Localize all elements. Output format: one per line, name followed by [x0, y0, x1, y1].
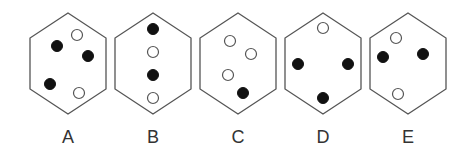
filled-dot: [293, 59, 304, 70]
hexagon-figure: ABCDE: [0, 0, 469, 160]
option-c[interactable]: C: [200, 13, 276, 147]
filled-dot: [52, 41, 63, 52]
option-e[interactable]: E: [370, 13, 446, 147]
filled-dot: [45, 79, 56, 90]
filled-dot: [418, 49, 429, 60]
open-dot: [148, 47, 159, 58]
open-dot: [246, 49, 257, 60]
option-label: E: [402, 127, 414, 147]
open-dot: [318, 23, 329, 34]
filled-dot: [148, 24, 159, 35]
hexagon-outline: [370, 13, 446, 114]
open-dot: [72, 30, 83, 41]
open-dot: [148, 93, 159, 104]
option-a[interactable]: A: [30, 13, 106, 147]
hexagon-outline: [30, 13, 106, 114]
options-layer: ABCDE: [30, 13, 446, 147]
option-label: C: [232, 127, 245, 147]
filled-dot: [238, 88, 249, 99]
filled-dot: [378, 52, 389, 63]
option-label: A: [62, 127, 74, 147]
filled-dot: [148, 70, 159, 81]
open-dot: [74, 88, 85, 99]
option-b[interactable]: B: [115, 13, 191, 147]
open-dot: [391, 33, 402, 44]
filled-dot: [343, 59, 354, 70]
open-dot: [223, 70, 234, 81]
filled-dot: [318, 93, 329, 104]
filled-dot: [83, 51, 94, 62]
open-dot: [393, 89, 404, 100]
option-label: B: [147, 127, 159, 147]
option-label: D: [317, 127, 330, 147]
hexagon-outline: [200, 13, 276, 114]
option-d[interactable]: D: [285, 13, 361, 147]
open-dot: [225, 36, 236, 47]
